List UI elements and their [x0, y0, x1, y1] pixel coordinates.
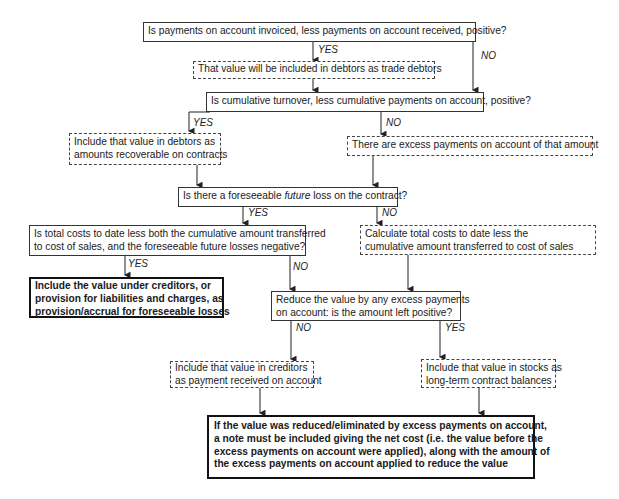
edge-label-no: NO [382, 207, 397, 218]
node-text-line: Calculate total costs to date less the [365, 228, 591, 241]
node-text-line: amounts recoverable on contracts [74, 149, 216, 162]
decision-cumulative-turnover: Is cumulative turnover, less cumulative … [206, 92, 484, 112]
node-text-emphasis: future [284, 190, 310, 201]
node-text: That value will be included in debtors a… [198, 63, 442, 74]
node-text-line: provision for liabilities and charges, a… [35, 293, 218, 306]
node-text: Is cumulative turnover, less cumulative … [211, 95, 531, 106]
node-text-line: If the value was reduced/eliminated by e… [214, 420, 528, 433]
edge-label-no: NO [386, 117, 401, 128]
edge-label-yes: YES [248, 207, 268, 218]
node-text-line: Include that value in stocks as [426, 362, 551, 375]
edge-label-yes: YES [128, 258, 148, 269]
node-text-line: Is total costs to date less both the cum… [34, 228, 301, 241]
edge-label-yes: YES [318, 44, 338, 55]
edge-label-no: NO [481, 50, 496, 61]
node-text-line: cumulative amount transferred to cost of… [365, 241, 591, 254]
decision-foreseeable-future-loss: Is there a foreseeable future loss on th… [178, 187, 398, 207]
edge-label-no: NO [293, 261, 308, 272]
node-text: Is payments on account invoiced, less pa… [148, 25, 506, 36]
node-text-line: long-term contract balances [426, 375, 551, 388]
terminal-creditors-provision: Include the value under creditors, or pr… [29, 277, 224, 318]
node-text-line: as payment received on account [175, 375, 309, 388]
node-text-line: Reduce the value by any excess payments [276, 294, 456, 307]
decision-payments-invoiced: Is payments on account invoiced, less pa… [143, 22, 476, 42]
action-creditors-payment-received: Include that value in creditors as payme… [170, 361, 314, 388]
edge-label-yes: YES [193, 117, 213, 128]
action-trade-debtors: That value will be included in debtors a… [193, 61, 435, 79]
action-stocks-contract-balances: Include that value in stocks as long-ter… [421, 359, 556, 388]
edge-label-yes: YES [445, 322, 465, 333]
decision-total-costs-negative: Is total costs to date less both the cum… [29, 225, 306, 256]
action-calculate-total-costs: Calculate total costs to date less the c… [360, 225, 596, 255]
node-text-line: Include that value in creditors [175, 362, 309, 375]
node-text: There are excess payments on account of … [352, 139, 598, 150]
node-text-line: Include that value in debtors as [74, 136, 216, 149]
node-text-line: a note must be included giving the net c… [214, 433, 528, 446]
node-text-line: on account: is the amount left positive? [276, 307, 456, 320]
node-text-pre: Is there a foreseeable [183, 190, 284, 201]
node-text-line: the excess payments on account applied t… [214, 458, 528, 471]
node-text-line: Include the value under creditors, or [35, 280, 218, 293]
node-text-post: loss on the contract? [310, 190, 407, 201]
decision-reduce-value: Reduce the value by any excess payments … [271, 291, 461, 321]
node-text-line: provision/accrual for foreseeable losses [35, 306, 218, 319]
terminal-disclosure-note: If the value was reduced/eliminated by e… [207, 415, 535, 479]
node-text-line: excess payments on account were applied)… [214, 446, 528, 459]
action-amounts-recoverable: Include that value in debtors as amounts… [69, 133, 221, 165]
node-text-line: to cost of sales, and the foreseeable fu… [34, 241, 301, 254]
edge-label-no: NO [296, 322, 311, 333]
action-excess-payments: There are excess payments on account of … [347, 136, 593, 156]
